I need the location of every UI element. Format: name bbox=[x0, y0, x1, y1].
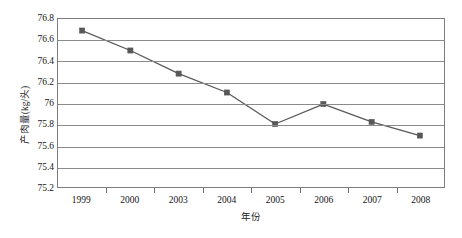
x-axis-tick-mark bbox=[106, 188, 107, 193]
gridline bbox=[58, 83, 444, 84]
y-axis-tick-label: 75.8 bbox=[18, 119, 54, 129]
x-axis-tick-mark bbox=[203, 188, 204, 193]
data-point-marker bbox=[369, 119, 374, 124]
gridline bbox=[58, 168, 444, 169]
y-axis-tick-labels: 76.876.676.476.27675.875.675.475.2 bbox=[18, 18, 54, 188]
data-point-marker bbox=[417, 133, 422, 138]
x-axis-title: 年份 bbox=[57, 210, 445, 224]
y-axis-tick-label: 76.8 bbox=[18, 13, 54, 23]
y-axis-tick-label: 76 bbox=[18, 98, 54, 108]
x-axis-tick-label: 2000 bbox=[103, 194, 157, 207]
x-axis-tick-label: 2005 bbox=[248, 194, 302, 207]
line-chart: 产肉量(kg/头) 76.876.676.476.27675.875.675.4… bbox=[0, 0, 462, 238]
x-axis-tick-labels: 19992000200320042005200620072008 bbox=[57, 194, 445, 208]
gridline bbox=[58, 104, 444, 105]
gridline bbox=[58, 125, 444, 126]
y-axis-tick-label: 75.6 bbox=[18, 141, 54, 151]
x-axis-tick-mark bbox=[154, 188, 155, 193]
x-axis-tick-label: 2004 bbox=[200, 194, 254, 207]
gridline bbox=[58, 61, 444, 62]
x-axis-tick-mark bbox=[251, 188, 252, 193]
x-axis-tick-label: 2006 bbox=[297, 194, 351, 207]
y-axis-tick-label: 76.2 bbox=[18, 77, 54, 87]
data-series-line bbox=[58, 19, 444, 187]
x-axis-tick-label: 2003 bbox=[151, 194, 205, 207]
data-point-marker bbox=[80, 28, 85, 33]
x-axis-tick-label: 1999 bbox=[54, 194, 108, 207]
x-axis-tick-label: 2007 bbox=[345, 194, 399, 207]
gridline bbox=[58, 40, 444, 41]
y-axis-tick-label: 76.6 bbox=[18, 34, 54, 44]
x-axis-tick-marks bbox=[57, 188, 445, 193]
x-axis-tick-mark bbox=[348, 188, 349, 193]
data-point-marker bbox=[224, 90, 229, 95]
x-axis-tick-mark bbox=[397, 188, 398, 193]
data-point-marker bbox=[176, 71, 181, 76]
gridline bbox=[58, 147, 444, 148]
plot-area bbox=[57, 18, 445, 188]
x-axis-tick-mark bbox=[300, 188, 301, 193]
data-point-marker bbox=[128, 48, 133, 53]
y-axis-tick-label: 76.4 bbox=[18, 56, 54, 66]
y-axis-tick-label: 75.2 bbox=[18, 183, 54, 193]
y-axis-tick-label: 75.4 bbox=[18, 162, 54, 172]
x-axis-tick-label: 2008 bbox=[394, 194, 448, 207]
